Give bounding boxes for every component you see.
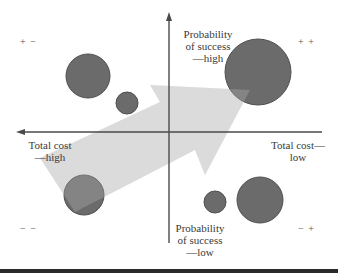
- x-axis-left-label: Total cost —high: [22, 139, 78, 163]
- bubble-upper-left-large: [66, 54, 110, 98]
- label-line: —low: [172, 246, 228, 258]
- quadrant-bottom-right-marker: − +: [298, 223, 315, 234]
- label-line: Probability: [172, 28, 244, 40]
- x-axis-arrowhead-icon: [16, 129, 25, 135]
- y-axis-bottom-label: Probability of success —low: [172, 222, 228, 258]
- y-axis-arrowhead-icon: [166, 12, 172, 21]
- quadrant-bottom-left-marker: − −: [20, 223, 37, 234]
- bubble-lower-right: [237, 177, 283, 223]
- bubble-upper-left-small: [116, 92, 138, 114]
- bubble-quadrant-diagram: Probability of success —high Probability…: [0, 0, 338, 278]
- bubble-lower-right-small: [204, 191, 226, 213]
- bottom-rule: [0, 269, 338, 273]
- y-axis-top-label: Probability of success —high: [172, 28, 244, 64]
- x-axis-right-label: Total cost— low: [268, 139, 328, 163]
- label-line: low: [268, 151, 328, 163]
- label-line: Probability: [172, 222, 228, 234]
- label-line: of success: [172, 40, 244, 52]
- label-line: —high: [172, 52, 244, 64]
- quadrant-top-right-marker: + +: [298, 36, 315, 47]
- label-line: —high: [22, 151, 78, 163]
- label-line: of success: [172, 234, 228, 246]
- label-line: Total cost—: [268, 139, 328, 151]
- quadrant-top-left-marker: + −: [20, 36, 37, 47]
- label-line: Total cost: [22, 139, 78, 151]
